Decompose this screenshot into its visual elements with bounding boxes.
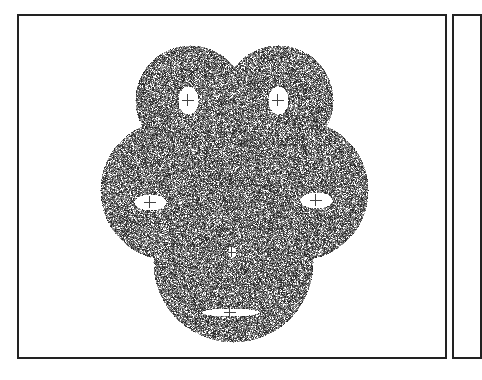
stippled-lobed-shape [0, 0, 463, 380]
